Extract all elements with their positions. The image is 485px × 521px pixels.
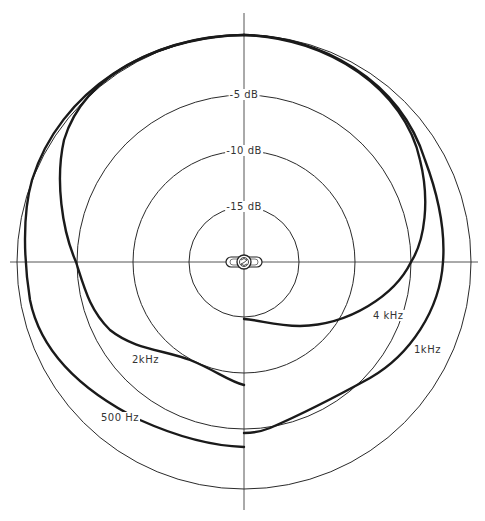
curve-2khz [60, 35, 244, 385]
curve-label-2khz: 2kHz [131, 354, 160, 365]
ring-label-minus15db: -15 dB [225, 201, 263, 212]
curve-1khz [244, 35, 443, 433]
polar-diagram [0, 0, 485, 521]
microphone-capsule-icon [226, 255, 262, 269]
curve-label-4khz: 4 kHz [372, 310, 405, 321]
curve-label-1khz: 1kHz [413, 344, 442, 355]
curve-4khz [244, 35, 425, 326]
ring-label-minus5db: -5 dB [229, 89, 260, 100]
curve-label-500hz: 500 Hz [100, 412, 140, 423]
ring-label-minus10db: -10 dB [225, 145, 263, 156]
